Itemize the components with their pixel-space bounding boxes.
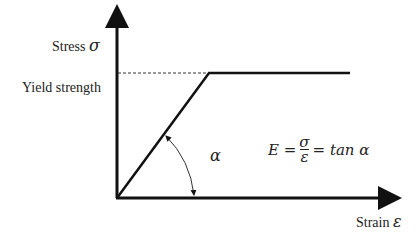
formula: E = σ ε = tan α <box>268 135 369 164</box>
angle-label: α <box>210 146 221 165</box>
y-axis-label: Stress σ <box>52 36 100 55</box>
angle-arc <box>166 136 194 195</box>
yield-strength-label: Yield strength <box>22 80 101 96</box>
x-axis-label: Strain ε <box>356 212 402 231</box>
